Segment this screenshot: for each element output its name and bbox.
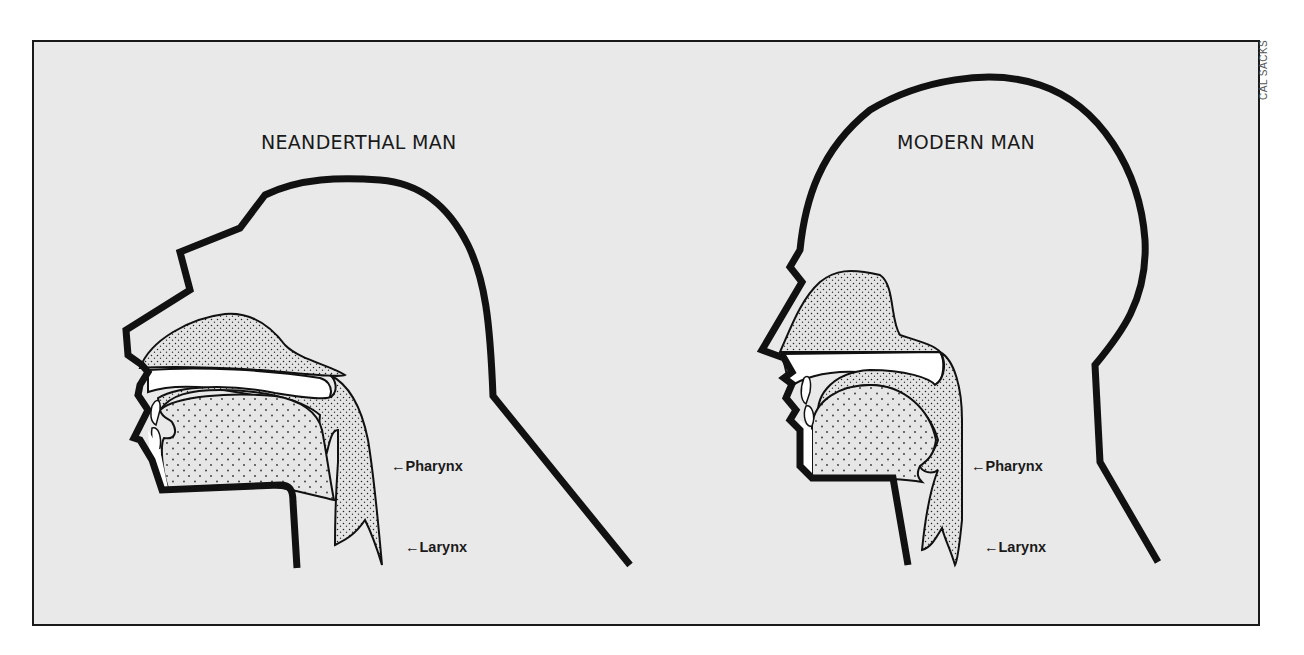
- arrow-left-icon: ←: [405, 539, 420, 555]
- neanderthal-head: [126, 179, 630, 568]
- arrow-left-icon: ←: [391, 458, 406, 474]
- modern-upper-tooth: [801, 377, 810, 404]
- neanderthal-upper-tooth: [151, 400, 160, 425]
- neanderthal-pharynx-label: ←Pharynx: [391, 458, 463, 474]
- vocal-tract-diagram: [0, 0, 1304, 655]
- label-text: Pharynx: [986, 458, 1043, 474]
- neanderthal-larynx-label: ←Larynx: [405, 539, 467, 555]
- neanderthal-title: NEANDERTHAL MAN: [261, 131, 457, 153]
- modern-pharynx-label: ←Pharynx: [971, 458, 1043, 474]
- arrow-left-icon: ←: [984, 539, 999, 555]
- modern-larynx-label: ←Larynx: [984, 539, 1046, 555]
- label-text: Pharynx: [406, 458, 463, 474]
- artist-credit: CAL SACKS: [1258, 40, 1269, 100]
- arrow-left-icon: ←: [971, 458, 986, 474]
- label-text: Larynx: [999, 539, 1047, 555]
- label-text: Larynx: [420, 539, 468, 555]
- modern-lower-tooth: [804, 406, 813, 426]
- neanderthal-nasal-cavity: [140, 314, 345, 376]
- modern-title: MODERN MAN: [897, 131, 1035, 153]
